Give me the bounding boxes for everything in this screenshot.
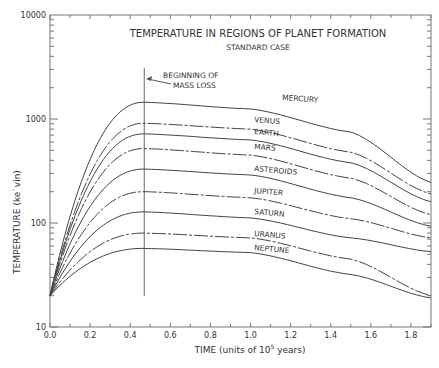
x-tick-label: 0.2: [84, 331, 97, 340]
y-tick-label: 1000: [26, 115, 46, 124]
y-axis-label: TEMPERATURE (keˋvin): [12, 170, 22, 275]
y-tick-label: 100: [31, 219, 46, 228]
curve-uranus: [50, 233, 431, 296]
chart: 101001000100000.00.20.40.60.81.01.21.41.…: [0, 0, 439, 368]
y-tick-label: 10000: [21, 11, 46, 20]
x-tick-label: 1.2: [284, 331, 297, 340]
chart-title: TEMPERATURE IN REGIONS OF PLANET FORMATI…: [129, 28, 387, 39]
curve-earth: [50, 134, 431, 296]
annotation-line2: MASS LOSS: [173, 81, 216, 90]
x-tick-label: 1.8: [405, 331, 418, 340]
x-tick-label: 0.6: [164, 331, 177, 340]
chart-subtitle: STANDARD CASE: [226, 43, 290, 52]
series-label-venus: VENUS: [254, 115, 281, 126]
series-label-mercury: MERCURY: [282, 93, 319, 105]
x-axis-label: TIME (units of 105 years): [194, 343, 306, 355]
curve-neptune: [50, 248, 431, 298]
series-label-saturn: SATURN: [254, 207, 285, 219]
x-tick-label: 1.0: [244, 331, 257, 340]
curve-asteroids: [50, 169, 431, 296]
x-tick-label: 0.0: [44, 331, 57, 340]
annotation-line1: BEGINNING OF: [163, 71, 218, 80]
x-tick-label: 0.8: [204, 331, 217, 340]
x-tick-label: 1.6: [364, 331, 377, 340]
series-label-jupiter: JUPITER: [253, 186, 284, 198]
series-label-asteroids: ASTEROIDS: [254, 164, 298, 177]
curve-saturn: [50, 212, 431, 296]
curve-mercury: [50, 102, 431, 296]
series-label-earth: EARTH: [254, 127, 279, 138]
x-tick-label: 0.4: [124, 331, 137, 340]
curve-venus: [50, 123, 431, 295]
x-tick-label: 1.4: [324, 331, 337, 340]
series-label-mars: MARS: [254, 142, 277, 153]
